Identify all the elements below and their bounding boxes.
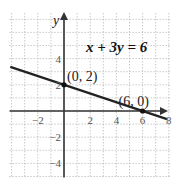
y-tick-label: 4 — [56, 53, 62, 65]
y-tick-label: −2 — [49, 131, 61, 143]
y-tick-label: 2 — [56, 79, 62, 91]
y-tick-label: −4 — [49, 157, 61, 169]
x-tick-label: 4 — [114, 114, 120, 126]
point-label: (0, 2) — [67, 69, 98, 85]
x-tick-label: 6 — [140, 114, 146, 126]
x-tick-label: −2 — [32, 114, 44, 126]
graph: −2246842−2−4 (0, 2)(6, 0) y x + 3y = 6 — [0, 0, 176, 187]
x-tick-label: 8 — [166, 114, 172, 126]
equation-label: x + 3y = 6 — [85, 39, 148, 55]
labeled-points: (0, 2)(6, 0) — [61, 69, 149, 114]
point-marker — [140, 108, 145, 113]
point-marker — [61, 82, 66, 87]
x-tick-label: 2 — [87, 114, 93, 126]
point-label: (6, 0) — [119, 94, 150, 110]
y-axis-label: y — [51, 13, 60, 28]
